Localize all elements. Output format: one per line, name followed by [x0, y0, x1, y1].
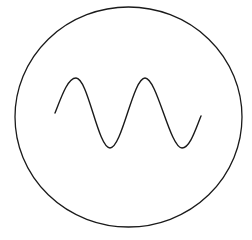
ac-source-symbol-icon: [0, 0, 252, 240]
ac-source-diagram: [0, 0, 252, 240]
sine-wave: [55, 78, 201, 148]
source-circle: [15, 7, 242, 227]
